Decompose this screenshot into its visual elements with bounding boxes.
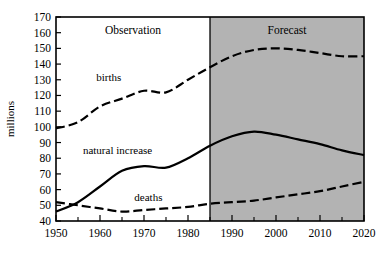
y-tick-label: 140 — [34, 58, 52, 70]
region-label-observation: Observation — [105, 24, 161, 36]
y-tick-label: 50 — [40, 199, 52, 211]
x-tick-label: 1980 — [177, 227, 200, 239]
y-tick-label: 70 — [40, 168, 52, 180]
region-forecast — [210, 17, 364, 221]
births-label: births — [96, 71, 121, 83]
x-tick-label: 2020 — [353, 227, 376, 239]
x-tick-label: 1950 — [45, 227, 68, 239]
y-tick-label: 120 — [34, 89, 52, 101]
x-tick-label: 1990 — [221, 227, 244, 239]
x-tick-label: 1960 — [89, 227, 112, 239]
population-chart: 4050607080901001101201301401501601701950… — [0, 0, 383, 259]
natural-increase-label: natural increase — [83, 144, 152, 156]
y-tick-label: 130 — [34, 74, 52, 86]
y-tick-label: 100 — [34, 121, 52, 133]
y-tick-label: 80 — [40, 152, 52, 164]
x-tick-label: 2000 — [265, 227, 288, 239]
y-tick-label: 60 — [40, 184, 52, 196]
y-tick-label: 40 — [40, 215, 52, 227]
y-tick-label: 160 — [34, 27, 52, 39]
x-tick-label: 2010 — [309, 227, 332, 239]
chart-canvas: 4050607080901001101201301401501601701950… — [0, 0, 383, 259]
y-tick-label: 110 — [34, 105, 51, 117]
x-tick-label: 1970 — [133, 227, 156, 239]
y-tick-label: 170 — [34, 11, 52, 23]
y-axis-title: millions — [4, 101, 16, 137]
y-tick-label: 150 — [34, 42, 52, 54]
deaths-label: deaths — [134, 191, 162, 203]
y-tick-label: 90 — [40, 137, 52, 149]
region-label-forecast: Forecast — [268, 24, 308, 36]
